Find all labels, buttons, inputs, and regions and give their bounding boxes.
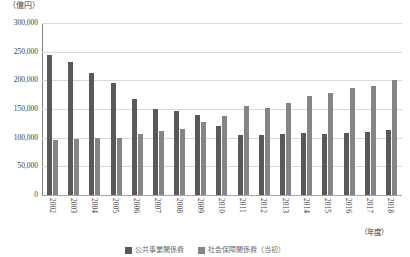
- bar: [259, 135, 264, 195]
- bar-group: [381, 23, 402, 195]
- bar: [138, 134, 143, 195]
- y-axis-tick-label: 300,000: [0, 19, 38, 27]
- bar: [195, 115, 200, 195]
- x-axis-tick-label: 2015: [323, 198, 331, 213]
- bar: [371, 86, 376, 195]
- y-axis-tick-label: 100,000: [0, 134, 38, 142]
- x-axis-caption: （年度）: [360, 228, 388, 237]
- x-axis-tick-label: 2009: [196, 198, 204, 213]
- legend-label: 公共事業関係費: [135, 246, 184, 255]
- x-axis-tick-label: 2013: [281, 198, 289, 213]
- y-axis-tick-label: 150,000: [0, 105, 38, 113]
- gridline: [42, 195, 402, 196]
- bar: [180, 129, 185, 196]
- bar-group: [211, 23, 232, 195]
- bar: [350, 88, 355, 195]
- legend: 公共事業関係費社会保障関係費（当初）: [0, 246, 410, 255]
- legend-item: 公共事業関係費: [125, 246, 184, 255]
- y-axis-unit-label: （億円）: [8, 1, 40, 11]
- x-axis-tick-label: 2008: [175, 198, 183, 213]
- bar: [265, 108, 270, 195]
- legend-item: 社会保障関係費（当初）: [198, 246, 285, 255]
- bar-chart: （億円） 300,000250,000200,000150,000100,000…: [0, 0, 410, 257]
- bar: [159, 131, 164, 195]
- bar: [222, 116, 227, 195]
- bar-group: [275, 23, 296, 195]
- bar: [286, 103, 291, 195]
- bar: [365, 132, 370, 195]
- bar: [344, 133, 349, 195]
- bar: [322, 134, 327, 195]
- x-axis-tick-label: 2005: [111, 198, 119, 213]
- bar-group: [338, 23, 359, 195]
- legend-label: 社会保障関係費（当初）: [208, 246, 285, 255]
- bar-group: [233, 23, 254, 195]
- legend-swatch: [125, 247, 132, 254]
- bar: [386, 130, 391, 195]
- x-axis-tick-label: 2010: [217, 198, 225, 213]
- bar: [53, 140, 58, 195]
- bar: [89, 73, 94, 195]
- bar: [47, 55, 52, 195]
- bar: [132, 99, 137, 195]
- bar: [216, 126, 221, 195]
- bar-group: [254, 23, 275, 195]
- bar: [238, 135, 243, 195]
- x-axis-tick-label: 2016: [344, 198, 352, 213]
- y-axis-tick-label: 200,000: [0, 76, 38, 84]
- x-axis-tick-label: 2007: [153, 198, 161, 213]
- bar: [301, 133, 306, 195]
- bar-group: [169, 23, 190, 195]
- x-axis-tick-label: 2006: [132, 198, 140, 213]
- bar: [153, 109, 158, 195]
- x-axis-tick-label: 2004: [90, 198, 98, 213]
- bar-group: [42, 23, 63, 195]
- bar: [117, 138, 122, 195]
- bar: [95, 138, 100, 195]
- bar: [111, 83, 116, 195]
- x-axis-tick-label: 2003: [69, 198, 77, 213]
- bar-group: [360, 23, 381, 195]
- bar-group: [296, 23, 317, 195]
- plot-area: 300,000250,000200,000150,000100,00050,00…: [42, 23, 402, 195]
- bar: [244, 106, 249, 195]
- bar-group: [190, 23, 211, 195]
- bar: [201, 122, 206, 195]
- x-axis-tick-label: 2012: [259, 198, 267, 213]
- x-axis-tick-label: 2017: [365, 198, 373, 213]
- bar: [74, 139, 79, 195]
- bar: [307, 96, 312, 195]
- x-axis-tick-label: 2014: [302, 198, 310, 213]
- x-axis-tick-labels: 2002200320042005200620072008200920102011…: [42, 198, 402, 232]
- bars-layer: [42, 23, 402, 195]
- bar: [328, 93, 333, 195]
- bar-group: [148, 23, 169, 195]
- bar-group: [317, 23, 338, 195]
- bar-group: [127, 23, 148, 195]
- legend-swatch: [198, 247, 205, 254]
- x-axis-tick-label: 2011: [238, 198, 246, 213]
- bar: [174, 111, 179, 195]
- x-axis-tick-label: 2002: [48, 198, 56, 213]
- y-axis-tick-label: 250,000: [0, 48, 38, 56]
- bar-group: [63, 23, 84, 195]
- x-axis-tick-label: 2018: [386, 198, 394, 213]
- bar: [68, 62, 73, 195]
- bar: [280, 134, 285, 195]
- y-axis-tick-label: 50,000: [0, 162, 38, 170]
- y-axis-tick-label: 0: [0, 191, 38, 199]
- bar-group: [106, 23, 127, 195]
- bar: [392, 80, 397, 195]
- bar-group: [84, 23, 105, 195]
